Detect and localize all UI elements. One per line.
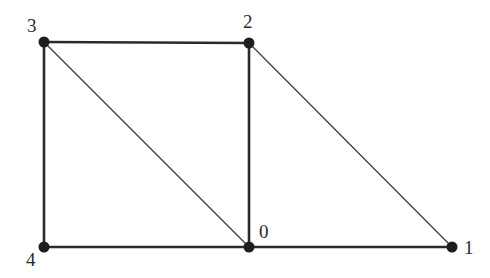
node-label-3: 3 [27,15,37,36]
node-label-0: 0 [259,221,269,242]
node-3 [39,37,50,48]
node-0 [244,242,255,253]
edge-3-2 [44,42,249,43]
node-label-2: 2 [243,11,253,32]
node-label-4: 4 [26,249,36,270]
node-4 [39,242,50,253]
node-1 [447,242,458,253]
edge-3-0 [44,42,249,247]
edges-group [44,42,452,247]
graph-diagram: 01234 [0,0,490,278]
edge-2-1 [249,43,452,247]
node-2 [244,38,255,49]
node-label-1: 1 [464,237,474,258]
